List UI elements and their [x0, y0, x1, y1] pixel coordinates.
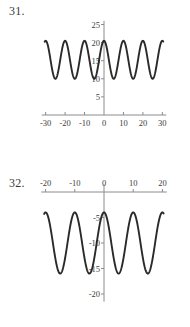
y-tick-label: -20	[89, 289, 100, 299]
x-tick-label: -10	[79, 118, 90, 128]
x-tick-label: -10	[69, 178, 80, 188]
x-tick-label: -20	[40, 178, 51, 188]
x-tick-label: 30	[158, 118, 167, 128]
figure-31: 31. -30-20-100102030510152025	[0, 0, 190, 163]
x-tick-label: -30	[40, 118, 51, 128]
y-tick-label: -10	[89, 238, 100, 248]
y-tick-label: 25	[92, 20, 101, 30]
figure-32: 32. -20-1001020-5-10-15-20	[0, 164, 190, 327]
y-tick-label: -5	[93, 213, 100, 223]
y-tick-label: 5	[96, 92, 100, 102]
plot-31: -30-20-100102030510152025	[0, 0, 190, 163]
x-tick-label: 20	[139, 118, 148, 128]
plot-32: -20-1001020-5-10-15-20	[0, 164, 190, 327]
x-tick-label: -20	[59, 118, 70, 128]
x-tick-label: 20	[158, 178, 167, 188]
y-tick-label: 20	[92, 38, 101, 48]
x-tick-label: 10	[129, 178, 138, 188]
x-tick-label: 0	[102, 118, 106, 128]
x-tick-label: 0	[102, 178, 106, 188]
x-tick-label: 10	[119, 118, 128, 128]
